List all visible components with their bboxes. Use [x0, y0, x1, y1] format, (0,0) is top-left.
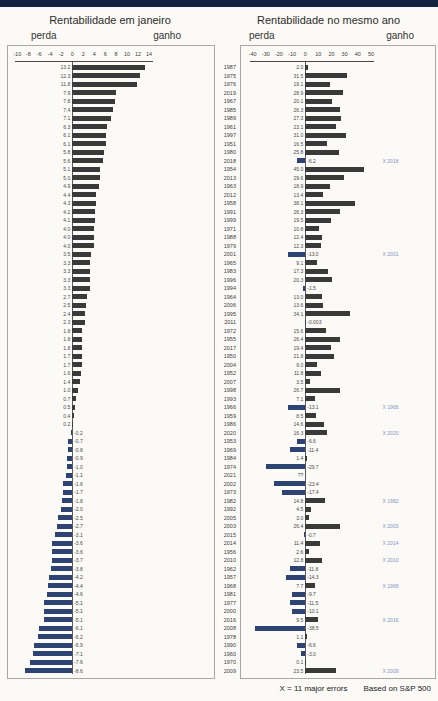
- bar-row: 25.8: [241, 148, 435, 157]
- value-label: -6.6: [305, 437, 316, 446]
- major-error-marker: X 2020: [383, 429, 399, 438]
- positive-bar: [72, 328, 82, 333]
- bar-row: 31.0: [241, 131, 435, 140]
- positive-bar: [72, 371, 81, 376]
- value-label: -6.9: [72, 641, 83, 650]
- value-label: 6.3: [63, 123, 72, 132]
- year-label: 1992: [219, 505, 240, 514]
- bar-row: 26.4: [241, 335, 435, 344]
- bar-row: 12.4: [241, 233, 435, 242]
- bar-row: 4.4: [8, 191, 214, 200]
- bar-row: -8.6: [8, 667, 214, 676]
- bar-row: -6.1: [8, 624, 214, 633]
- positive-bar: [305, 107, 340, 112]
- positive-bar: [72, 90, 115, 95]
- value-label: 4.0: [63, 225, 72, 234]
- positive-bar: [305, 634, 306, 639]
- year-label: 1986: [219, 420, 240, 429]
- positive-bar: [305, 515, 309, 520]
- positive-bar: [72, 269, 90, 274]
- year-label: 1985: [219, 106, 240, 115]
- negative-bar: [44, 609, 72, 614]
- value-label: 19.5: [294, 216, 306, 225]
- value-label: 29.6: [294, 174, 306, 183]
- positive-bar: [305, 396, 314, 401]
- positive-bar: [305, 201, 355, 206]
- bar-row: 45.0: [241, 165, 435, 174]
- year-label: 2013: [219, 174, 240, 183]
- major-error-marker: X 2001: [383, 250, 399, 259]
- bar-row: 0.1: [241, 658, 435, 667]
- positive-bar: [72, 294, 87, 299]
- bar-row: 7.9: [8, 89, 214, 98]
- year-label: 1962: [219, 565, 240, 574]
- positive-bar: [72, 243, 94, 248]
- x-axis-ticks: -10-8-6-4-202468101214: [8, 49, 214, 59]
- value-label: 13.2: [60, 63, 72, 72]
- negative-bar: [290, 566, 306, 571]
- value-label: 16.3: [294, 429, 306, 438]
- bar-row: 1.1: [241, 633, 435, 642]
- year-label: 1996: [219, 276, 240, 285]
- positive-bar: [305, 260, 317, 265]
- value-label: 13.6: [294, 301, 306, 310]
- bar-row: 19.1: [241, 80, 435, 89]
- full-year-chart-plot: -40-30-20-10010203040502.031.519.128.920…: [240, 45, 436, 679]
- bar-rows: 13.212.311.87.97.87.47.16.36.16.15.85.65…: [8, 63, 214, 675]
- bar-row: 2.3: [8, 318, 214, 327]
- value-label: 4.1: [63, 216, 72, 225]
- value-label: 8.5: [296, 412, 305, 421]
- bar-row: -1.0: [8, 463, 214, 472]
- value-label: 1.7: [63, 352, 72, 361]
- value-label: -14.3: [305, 573, 318, 582]
- bar-row: 19.5: [241, 216, 435, 225]
- bar-row: 34.1: [241, 310, 435, 319]
- value-label: -7.1: [72, 650, 83, 659]
- bar-row: 4.1: [8, 216, 214, 225]
- january-loss-label: perda: [31, 30, 57, 41]
- value-label: 10.8: [294, 225, 306, 234]
- bar-row: 26.4X 2003: [241, 522, 435, 531]
- charts-container: Rentabilidade em janeiro perda ganho -10…: [0, 7, 438, 679]
- bar-row: -4.2: [8, 573, 214, 582]
- value-label: -0.8: [72, 446, 83, 455]
- positive-bar: [72, 201, 96, 206]
- negative-bar: [297, 158, 305, 163]
- value-label: 26.4: [294, 522, 306, 531]
- positive-bar: [72, 396, 76, 401]
- value-label: 17.3: [294, 267, 306, 276]
- bar-row: 5.6: [8, 157, 214, 166]
- value-label: 7.8: [63, 97, 72, 106]
- positive-bar: [305, 209, 340, 214]
- bar-row: 26.7: [241, 386, 435, 395]
- value-label: 28.9: [294, 89, 306, 98]
- negative-bar: [25, 668, 72, 673]
- bar-row: 3.3: [8, 276, 214, 285]
- major-errors-footnote: X = 11 major errors: [279, 684, 347, 693]
- year-label: 1965: [219, 259, 240, 268]
- positive-bar: [305, 379, 310, 384]
- year-label: 1963: [219, 182, 240, 191]
- bar-row: 16.3X 2020: [241, 429, 435, 438]
- bar-row: -4.6: [8, 590, 214, 599]
- positive-bar: [305, 243, 321, 248]
- bar-row: 9.1: [241, 259, 435, 268]
- negative-bar: [47, 592, 72, 597]
- value-label: 38.1: [294, 199, 306, 208]
- negative-bar: [49, 575, 72, 580]
- bar-row: -14.3: [241, 573, 435, 582]
- bar-row: 10.8: [241, 225, 435, 234]
- bar-row: 14.8X 1982: [241, 497, 435, 506]
- value-label: 1.1: [296, 633, 305, 642]
- bar-row: 12.3: [241, 242, 435, 251]
- value-label: -17.4: [305, 488, 318, 497]
- negative-bar: [266, 464, 305, 469]
- bar-rows: 2.031.519.128.920.126.327.323.131.016.52…: [241, 63, 435, 675]
- full-year-gain-label: ganho: [386, 30, 414, 41]
- value-label: 1.7: [63, 361, 72, 370]
- positive-bar: [72, 73, 140, 78]
- value-label: -13.1: [305, 403, 318, 412]
- axis-tick-label: 10: [315, 49, 321, 59]
- value-label: 19.4: [294, 344, 306, 353]
- positive-bar: [305, 99, 331, 104]
